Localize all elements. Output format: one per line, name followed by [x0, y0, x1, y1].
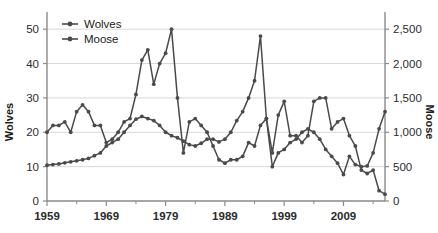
right-tick-label: 2,500: [393, 23, 422, 35]
data-point: [383, 110, 387, 114]
data-point: [75, 159, 79, 163]
data-point: [104, 144, 108, 148]
data-point: [229, 158, 233, 162]
right-tick-label: 1,500: [393, 92, 422, 104]
data-point: [353, 144, 357, 148]
legend-marker-icon: [68, 37, 73, 42]
data-point: [81, 158, 85, 162]
data-point: [176, 96, 180, 100]
data-point: [306, 127, 310, 131]
data-point: [199, 124, 203, 128]
data-point: [253, 79, 257, 83]
data-point: [282, 148, 286, 152]
data-point: [342, 117, 346, 121]
data-point: [45, 163, 49, 167]
data-point: [324, 148, 328, 152]
left-tick-label: 10: [26, 161, 39, 173]
data-point: [318, 96, 322, 100]
data-point: [300, 130, 304, 134]
data-point: [336, 120, 340, 124]
data-point: [116, 130, 120, 134]
left-tick-label: 20: [26, 126, 39, 138]
data-point: [158, 124, 162, 128]
data-point: [93, 124, 97, 128]
data-point: [217, 140, 221, 144]
data-point: [217, 158, 221, 162]
data-point: [253, 144, 257, 148]
data-point: [63, 120, 67, 124]
data-point: [288, 134, 292, 138]
data-point: [377, 189, 381, 193]
data-point: [193, 144, 197, 148]
data-point: [353, 163, 357, 167]
data-point: [128, 117, 132, 121]
data-point: [330, 127, 334, 131]
chart-canvas: 01020304050 05001,0001,5002,0002,500 195…: [0, 0, 438, 233]
data-point: [152, 82, 156, 86]
data-point: [371, 151, 375, 155]
legend-label: Wolves: [84, 18, 122, 30]
left-axis-title: Wolves: [3, 103, 15, 141]
data-point: [122, 120, 126, 124]
data-point: [205, 137, 209, 141]
data-point: [348, 154, 352, 158]
data-point: [164, 51, 168, 55]
data-point: [270, 165, 274, 169]
data-point: [294, 137, 298, 141]
x-tick-label: 1969: [94, 210, 120, 222]
data-point: [104, 141, 108, 145]
data-point: [223, 137, 227, 141]
data-point: [318, 137, 322, 141]
data-point: [164, 130, 168, 134]
data-point: [63, 161, 67, 165]
data-point: [45, 130, 49, 134]
data-point: [193, 117, 197, 121]
data-point: [181, 139, 185, 143]
left-tick-label: 30: [26, 92, 39, 104]
x-tick-label: 1999: [271, 210, 297, 222]
data-point: [87, 156, 91, 160]
data-point: [359, 165, 363, 169]
left-tick-label: 40: [26, 58, 39, 70]
data-point: [223, 161, 227, 165]
x-tick-label: 1989: [212, 210, 238, 222]
data-point: [259, 124, 263, 128]
data-point: [51, 163, 55, 167]
x-tick-label: 2009: [331, 210, 357, 222]
data-point: [211, 137, 215, 141]
data-point: [265, 117, 269, 121]
data-point: [276, 113, 280, 117]
right-axis-title: Moose: [424, 105, 436, 140]
data-point: [187, 143, 191, 147]
right-tick-label: 500: [393, 161, 412, 173]
data-point: [247, 96, 251, 100]
data-point: [152, 119, 156, 123]
right-tick-label: 1,000: [393, 126, 422, 138]
data-point: [235, 119, 239, 123]
data-point: [300, 141, 304, 145]
legend-marker-icon: [68, 22, 73, 27]
data-point: [359, 168, 363, 172]
data-point: [377, 127, 381, 131]
right-tick-label: 0: [393, 195, 399, 207]
data-point: [98, 124, 102, 128]
chart-background: [0, 0, 438, 233]
data-point: [116, 137, 120, 141]
data-point: [229, 130, 233, 134]
data-point: [110, 137, 114, 141]
data-point: [348, 134, 352, 138]
data-point: [170, 27, 174, 31]
data-point: [81, 103, 85, 107]
data-point: [134, 117, 138, 121]
data-point: [241, 154, 245, 158]
data-point: [306, 134, 310, 138]
data-point: [342, 173, 346, 177]
right-tick-label: 2,000: [393, 58, 422, 70]
data-point: [181, 151, 185, 155]
data-point: [57, 162, 61, 166]
data-point: [146, 48, 150, 52]
data-point: [176, 136, 180, 140]
left-tick-label: 50: [26, 23, 39, 35]
data-point: [211, 144, 215, 148]
data-point: [330, 154, 334, 158]
